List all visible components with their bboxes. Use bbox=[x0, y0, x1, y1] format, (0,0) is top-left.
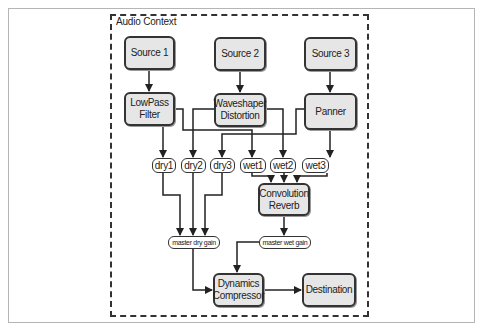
node-label: dry1 bbox=[155, 160, 173, 171]
node-label: Dynamics Compressor bbox=[213, 278, 264, 302]
node-label: wet2 bbox=[273, 160, 293, 171]
node-convolution-reverb: Convolution Reverb bbox=[258, 183, 310, 216]
node-lowpass-filter: LowPass Filter bbox=[124, 92, 175, 126]
node-destination: Destination bbox=[302, 273, 356, 307]
node-master-dry-gain: master dry gain bbox=[168, 236, 220, 249]
node-waveshaper-distortion: Waveshaper Distortion bbox=[214, 93, 266, 127]
node-source-2: Source 2 bbox=[214, 37, 266, 71]
node-panner: Panner bbox=[304, 93, 357, 130]
node-label: Convolution Reverb bbox=[259, 188, 309, 212]
node-label: Source 1 bbox=[131, 47, 169, 59]
node-label: master dry gain bbox=[172, 239, 216, 246]
node-dry1: dry1 bbox=[152, 158, 176, 173]
node-label: master wet gain bbox=[263, 239, 308, 246]
node-source-1: Source 1 bbox=[124, 36, 175, 70]
node-dry2: dry2 bbox=[181, 158, 206, 173]
node-source-3: Source 3 bbox=[304, 37, 357, 71]
node-label: Destination bbox=[306, 284, 353, 296]
node-wet1: wet1 bbox=[240, 158, 266, 173]
node-label: Waveshaper Distortion bbox=[214, 98, 267, 122]
node-label: Source 2 bbox=[221, 48, 259, 60]
node-label: wet3 bbox=[306, 160, 326, 171]
node-label: dry3 bbox=[213, 160, 231, 171]
node-wet2: wet2 bbox=[270, 158, 296, 173]
node-dry3: dry3 bbox=[210, 158, 235, 173]
node-dynamics-compressor: Dynamics Compressor bbox=[213, 273, 264, 307]
node-label: Source 3 bbox=[312, 48, 350, 60]
node-master-wet-gain: master wet gain bbox=[259, 236, 311, 249]
node-label: LowPass Filter bbox=[130, 97, 168, 121]
node-wet3: wet3 bbox=[302, 158, 329, 173]
node-label: dry2 bbox=[184, 160, 202, 171]
node-label: wet1 bbox=[243, 160, 263, 171]
node-label: Panner bbox=[315, 106, 345, 118]
